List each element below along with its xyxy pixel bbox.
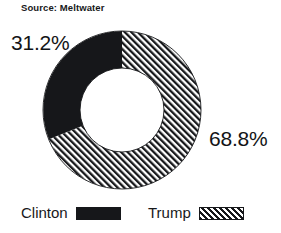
- legend-item-trump: Trump: [148, 204, 244, 222]
- chart-legend: Clinton Trump: [0, 204, 281, 230]
- clinton-percent-label: 31.2%: [11, 31, 70, 55]
- trump-percent-label: 68.8%: [209, 127, 268, 151]
- legend-label-clinton: Clinton: [21, 204, 68, 222]
- legend-label-trump: Trump: [148, 204, 191, 222]
- legend-swatch-trump: [199, 207, 244, 220]
- legend-swatch-clinton: [76, 207, 121, 220]
- legend-item-clinton: Clinton: [21, 204, 121, 222]
- donut-chart-figure: Source: Meltwater 31.2%: [0, 0, 281, 233]
